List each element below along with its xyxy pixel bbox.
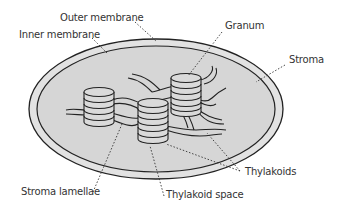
label-inner-membrane: Inner membrane (19, 30, 100, 40)
label-stroma-lamellae: Stroma lamellae (21, 187, 100, 197)
label-stroma: Stroma (289, 55, 324, 65)
granum-right (171, 74, 201, 117)
label-thylakoid-space: Thylakoid space (166, 190, 243, 200)
granum-left (84, 88, 114, 127)
label-outer-membrane: Outer membrane (60, 13, 143, 23)
label-granum: Granum (225, 21, 264, 31)
label-thylakoids: Thylakoids (245, 167, 296, 177)
leader-outer-membrane (135, 22, 156, 41)
granum-center (138, 99, 168, 144)
